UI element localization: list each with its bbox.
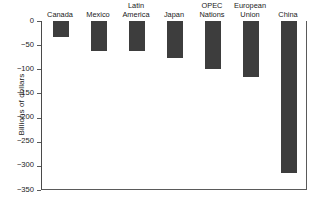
bar	[129, 21, 145, 51]
bar	[281, 21, 297, 173]
bar	[243, 21, 259, 77]
y-tick-label: −150	[17, 88, 34, 98]
category-label: China	[265, 11, 311, 20]
y-tick-label: −50	[21, 40, 34, 50]
y-tick-label: −100	[17, 64, 34, 74]
y-tick-mark	[37, 190, 42, 191]
y-tick-label: −350	[17, 185, 34, 195]
bar	[53, 21, 69, 37]
bar	[205, 21, 221, 69]
y-tick-label: −250	[17, 136, 34, 146]
bar	[167, 21, 183, 58]
plot-area	[41, 21, 307, 190]
y-tick-label: −200	[17, 112, 34, 122]
y-tick-label: −300	[17, 160, 34, 170]
bar	[91, 21, 107, 51]
chart-figure: Billions of dollars 0−50−100−150−200−250…	[0, 0, 315, 209]
y-axis-title: Billions of dollars	[14, 0, 28, 209]
y-tick-label: 0	[30, 16, 34, 26]
